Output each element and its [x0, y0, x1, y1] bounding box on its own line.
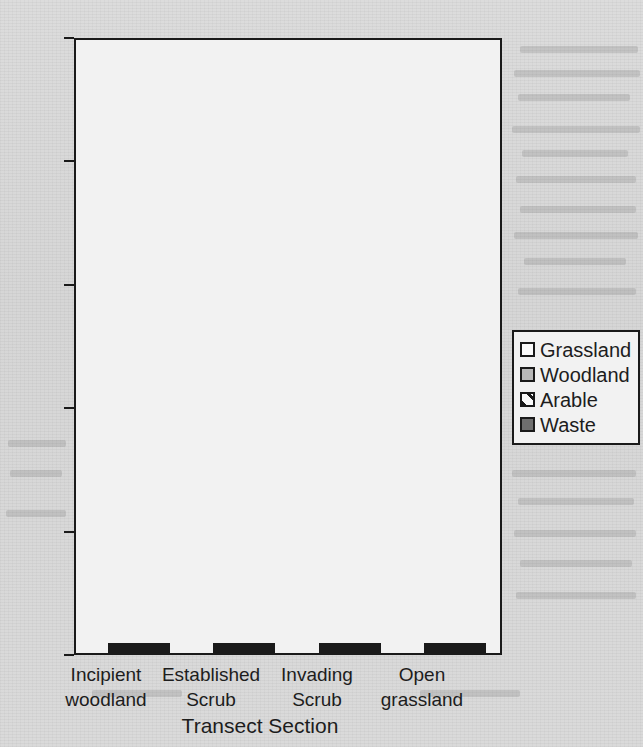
- y-tick-mark-20: [64, 531, 74, 533]
- segment-waste[interactable]: [213, 649, 275, 653]
- segment-waste[interactable]: [319, 649, 381, 653]
- segment-arable[interactable]: [424, 647, 486, 649]
- segment-grassland[interactable]: [424, 643, 486, 645]
- legend-label-grassland: Grassland: [540, 340, 631, 360]
- segment-woodland[interactable]: [213, 645, 275, 647]
- stacked-bar-chart: 100% 80% 60% 40% 20% 0%: [0, 0, 643, 747]
- segment-waste[interactable]: [424, 649, 486, 653]
- segment-woodland[interactable]: [319, 645, 381, 647]
- segment-woodland[interactable]: [424, 645, 486, 647]
- y-tick-mark-40: [64, 407, 74, 409]
- x-axis-title: Transect Section: [0, 714, 520, 738]
- legend-item-woodland[interactable]: Woodland: [520, 362, 631, 387]
- bar-established-scrub[interactable]: [213, 643, 275, 653]
- segment-grassland[interactable]: [213, 643, 275, 645]
- y-tick-mark-100: [64, 37, 74, 39]
- y-tick-mark-80: [64, 160, 74, 162]
- legend-label-waste: Waste: [540, 415, 596, 435]
- legend-swatch-grassland-icon: [520, 342, 535, 357]
- segment-arable[interactable]: [108, 647, 170, 649]
- y-tick-mark-60: [64, 284, 74, 286]
- bar-incipient-woodland[interactable]: [108, 643, 170, 653]
- bar-open-grassland[interactable]: [424, 643, 486, 653]
- segment-grassland[interactable]: [319, 643, 381, 645]
- bar-invading-scrub[interactable]: [319, 643, 381, 653]
- plot-area: [74, 38, 502, 655]
- x-category-line-2: grassland: [347, 687, 497, 712]
- legend-item-arable[interactable]: Arable: [520, 387, 631, 412]
- legend-label-arable: Arable: [540, 390, 598, 410]
- legend-swatch-woodland-icon: [520, 367, 535, 382]
- segment-arable[interactable]: [213, 647, 275, 649]
- legend: Grassland Woodland Arable Waste: [512, 330, 640, 445]
- legend-item-waste[interactable]: Waste: [520, 412, 631, 437]
- segment-grassland[interactable]: [108, 643, 170, 645]
- segment-arable[interactable]: [319, 647, 381, 649]
- segment-woodland[interactable]: [108, 645, 170, 647]
- segment-waste[interactable]: [108, 649, 170, 653]
- legend-item-grassland[interactable]: Grassland: [520, 337, 631, 362]
- x-category-open-grassland: Open grassland: [347, 662, 497, 712]
- legend-label-woodland: Woodland: [540, 365, 630, 385]
- y-tick-mark-0: [64, 654, 74, 656]
- legend-swatch-waste-icon: [520, 417, 535, 432]
- x-category-line-1: Open: [347, 662, 497, 687]
- legend-swatch-arable-icon: [520, 392, 535, 407]
